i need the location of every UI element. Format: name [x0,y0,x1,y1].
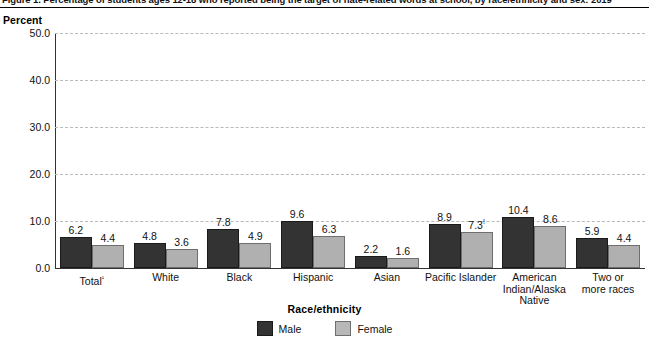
bar-group-bars: 6.24.4 [55,33,129,268]
legend-item-male: Male [257,321,302,336]
bar-male[interactable]: 7.8 [207,229,239,268]
bar-male[interactable]: 8.9 [429,224,461,268]
bar-male[interactable]: 2.2 [355,256,387,268]
bar-group-bars: 7.84.9 [203,33,277,268]
bar-value-label: 3.6 [174,236,189,248]
x-tick-label-line: Two or [562,272,649,284]
bar-female[interactable]: 7.3! [461,232,493,268]
legend-swatch-female-icon [335,321,351,336]
bar-group-bars: 8.97.3! [424,33,498,268]
bar-group-bars: 4.83.6 [129,33,203,268]
bar-value-label: 5.9 [585,225,600,237]
x-tick-footnote-marker: ¹ [102,274,104,281]
bar-group: 2.21.6Asian [350,33,424,268]
bar-group-bars: 10.48.6 [498,33,572,268]
figure-caption: Figure 1. Percentage of students ages 12… [2,0,612,5]
bar-value-label: 4.4 [617,232,632,244]
y-tick-label: 40.0 [30,74,50,86]
bar-female[interactable]: 6.3 [313,236,345,268]
y-tick-label: 50.0 [30,27,50,39]
bar-value-label: 4.4 [101,232,116,244]
x-axis-title: Race/ethnicity [0,303,649,315]
bar-female[interactable]: 3.6 [166,249,198,268]
bar-male[interactable]: 5.9 [576,238,608,268]
bar-value-label: 1.6 [396,245,411,257]
bar-female[interactable]: 1.6 [387,258,419,268]
bar-value-label: 8.6 [543,213,558,225]
bar-group-bars: 9.66.3 [276,33,350,268]
bar-group-bars: 5.94.4 [571,33,645,268]
bar-group: 6.24.4Total¹ [55,33,129,268]
chart-legend: Male Female [0,321,649,336]
bar-group: 4.83.6White [129,33,203,268]
bar-male[interactable]: 6.2 [60,237,92,268]
bar-female[interactable]: 8.6 [534,226,566,268]
x-axis-line [55,268,645,269]
bar-group: 8.97.3!Pacific Islander [424,33,498,268]
bar-value-label: 7.3! [468,218,485,231]
chart-plot-area: 0.010.020.030.040.050.06.24.4Total¹4.83.… [55,33,645,268]
bar-value-label: 4.9 [248,230,263,242]
bar-value-label: 6.3 [322,223,337,235]
y-tick-label: 30.0 [30,121,50,133]
bar-female[interactable]: 4.9 [239,243,271,268]
bar-male[interactable]: 9.6 [281,221,313,268]
y-tick-label: 20.0 [30,168,50,180]
bar-value-label: 4.8 [142,230,157,242]
bar-value-label: 7.8 [216,216,231,228]
legend-label-male: Male [279,323,302,335]
bar-value-label: 9.6 [290,208,305,220]
bar-male[interactable]: 10.4 [502,217,534,268]
bar-value-label: 2.2 [364,243,379,255]
bar-value-label: 10.4 [508,204,528,216]
bar-value-footnote-marker: ! [483,218,485,225]
bar-group: 7.84.9Black [203,33,277,268]
legend-label-female: Female [357,323,392,335]
y-tick-label: 10.0 [30,215,50,227]
legend-item-female: Female [335,321,392,336]
bar-male[interactable]: 4.8 [134,243,166,268]
legend-swatch-male-icon [257,321,273,336]
x-tick-label: Two ormore races [562,272,649,295]
bar-female[interactable]: 4.4 [608,245,640,268]
bar-value-label: 6.2 [69,224,84,236]
bar-value-label: 8.9 [437,211,452,223]
bar-female[interactable]: 4.4 [92,245,124,268]
bar-group: 9.66.3Hispanic [276,33,350,268]
bar-group: 5.94.4Two ormore races [571,33,645,268]
bar-group-bars: 2.21.6 [350,33,424,268]
caption-divider-rule [0,7,649,8]
bar-group: 10.48.6AmericanIndian/AlaskaNative [498,33,572,268]
y-axis-unit-label: Percent [3,14,42,26]
x-tick-label-line: more races [562,284,649,296]
